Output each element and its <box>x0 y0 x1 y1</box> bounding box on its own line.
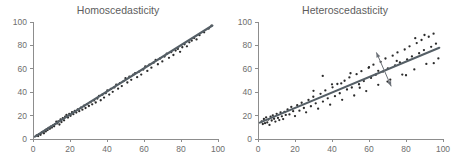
data-point <box>329 104 331 106</box>
y-tick-label: 60 <box>243 64 253 74</box>
data-point <box>341 99 343 101</box>
data-point <box>126 81 128 83</box>
panel-heteroscedasticity: Heteroscedasticity 020406080100020406080… <box>225 0 451 164</box>
data-point <box>420 39 422 41</box>
data-point <box>346 88 348 90</box>
data-point <box>339 92 341 94</box>
fit-line <box>35 26 213 137</box>
data-point <box>334 95 336 97</box>
data-point <box>401 73 403 75</box>
y-tick-label: 40 <box>18 87 28 97</box>
data-point <box>161 60 163 62</box>
data-point <box>305 111 307 113</box>
chart-title-heteroscedasticity: Heteroscedasticity <box>302 4 389 16</box>
data-point <box>146 70 148 72</box>
data-point <box>430 46 432 48</box>
x-tick-label: 60 <box>139 144 149 154</box>
y-tick-label: 0 <box>22 134 27 144</box>
data-point <box>349 72 351 74</box>
data-point <box>343 80 345 82</box>
data-point <box>310 105 312 107</box>
data-point <box>294 115 296 117</box>
y-tick-label: 20 <box>243 111 253 121</box>
y-tick-label: 20 <box>18 111 28 121</box>
y-tick-label: 0 <box>247 134 252 144</box>
data-point <box>425 63 427 65</box>
data-point <box>377 70 379 72</box>
data-point <box>117 88 119 90</box>
x-tick-label: 20 <box>65 144 75 154</box>
data-point <box>150 66 152 68</box>
data-point <box>414 37 416 39</box>
data-point <box>389 79 391 81</box>
axis-spine <box>258 22 443 139</box>
x-tick-label: 100 <box>436 144 450 154</box>
data-point <box>288 113 290 115</box>
y-tick-label: 40 <box>243 87 253 97</box>
data-point <box>353 94 355 96</box>
panel-homoscedasticity: Homoscedasticity 02040608010002040608010… <box>0 0 226 164</box>
data-point <box>437 57 439 59</box>
data-point <box>404 48 406 50</box>
fit-line <box>260 48 439 123</box>
data-point <box>100 99 102 101</box>
data-point <box>368 66 370 68</box>
data-point <box>372 64 374 66</box>
x-tick-label: 40 <box>327 144 337 154</box>
data-point <box>432 33 434 35</box>
data-point <box>281 115 283 117</box>
data-point <box>271 119 273 121</box>
data-point <box>384 57 386 59</box>
data-point <box>88 105 90 107</box>
data-point <box>435 43 437 45</box>
data-point <box>327 97 329 99</box>
regression-line-heteroscedasticity <box>260 48 439 123</box>
data-point <box>168 57 170 59</box>
y-tick-label: 100 <box>13 17 27 27</box>
data-point <box>392 55 394 57</box>
x-tick-label: 80 <box>401 144 411 154</box>
data-point <box>315 102 317 104</box>
y-tick-label: 100 <box>238 17 252 27</box>
data-point <box>266 121 268 123</box>
data-point <box>411 55 413 57</box>
data-point <box>423 49 425 51</box>
x-tick-label: 0 <box>31 144 36 154</box>
data-point <box>319 93 321 95</box>
chart-homoscedasticity: Homoscedasticity 02040608010002040608010… <box>0 0 226 164</box>
data-point <box>301 102 303 104</box>
data-point <box>365 90 367 92</box>
data-point <box>274 120 276 122</box>
data-point <box>140 73 142 75</box>
data-point <box>331 83 333 85</box>
data-point <box>358 83 360 85</box>
data-point <box>282 118 284 120</box>
data-point <box>416 42 418 44</box>
data-point <box>95 101 97 103</box>
data-point <box>405 74 407 76</box>
y-tick-label: 80 <box>18 40 28 50</box>
data-point <box>130 79 132 81</box>
data-point <box>181 46 183 48</box>
data-point <box>408 45 410 47</box>
data-point <box>91 103 93 105</box>
data-point <box>195 38 197 40</box>
data-point <box>360 70 362 72</box>
data-point <box>312 96 314 98</box>
data-point <box>355 73 357 75</box>
data-point <box>348 76 350 78</box>
data-point <box>322 100 324 102</box>
figure-container: Homoscedasticity 02040608010002040608010… <box>0 0 451 164</box>
x-tick-label: 0 <box>256 144 261 154</box>
data-point <box>428 36 430 38</box>
data-point <box>351 86 353 88</box>
data-point <box>396 60 398 62</box>
data-point <box>265 116 267 118</box>
data-point <box>172 54 174 56</box>
chart-title-homoscedasticity: Homoscedasticity <box>77 4 160 16</box>
data-point <box>157 63 159 65</box>
data-point <box>186 45 188 47</box>
data-point <box>312 90 314 92</box>
x-tick-label: 80 <box>176 144 186 154</box>
x-tick-label: 60 <box>364 144 374 154</box>
